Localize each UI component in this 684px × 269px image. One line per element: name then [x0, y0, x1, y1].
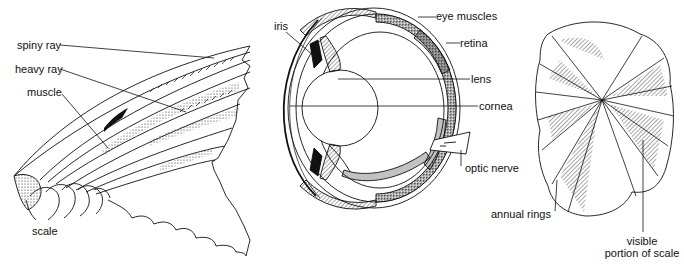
label-visible-portion: visible portion of scale	[598, 235, 684, 259]
label-visible-line1: visible	[598, 235, 684, 247]
label-heavy-ray: heavy ray	[15, 63, 63, 75]
label-muscle: muscle	[27, 86, 62, 98]
label-retina: retina	[460, 37, 488, 49]
label-annual-rings: annual rings	[491, 208, 551, 220]
label-optic-nerve: optic nerve	[465, 162, 519, 174]
label-scale: scale	[32, 225, 58, 237]
label-visible-line2: portion of scale	[598, 247, 684, 259]
label-iris: iris	[274, 20, 288, 32]
illustration-canvas	[0, 0, 684, 269]
label-eye-muscles: eye muscles	[436, 10, 497, 22]
label-cornea: cornea	[479, 100, 513, 112]
eye-drawing	[284, 8, 470, 209]
label-spiny-ray: spiny ray	[17, 39, 61, 51]
label-lens: lens	[471, 73, 491, 85]
